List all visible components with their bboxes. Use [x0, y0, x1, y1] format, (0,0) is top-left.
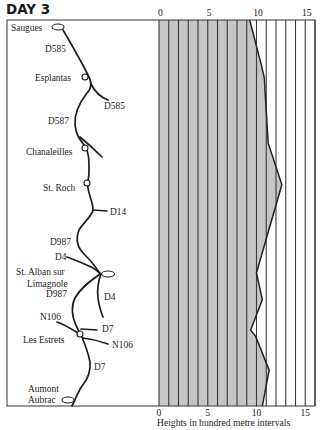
d4-upper-road: [67, 257, 101, 274]
esplantas-village-marker: [82, 74, 88, 80]
place-label-st-roch: St. Roch: [43, 183, 76, 193]
road-label-d987-north: D987: [50, 237, 71, 247]
road-label-d4-west: D4: [55, 252, 67, 262]
saugues-town-marker: [52, 24, 64, 30]
day-3-route-figure: DAY 3 051015 051015 Heights in hundred m…: [0, 0, 322, 430]
x-axis-title: Heights in hundred metre intervals: [157, 417, 290, 428]
road-label-d987-south: D987: [46, 289, 67, 299]
road-label-d7-south: D7: [94, 362, 106, 372]
st-alban-town-marker: [102, 271, 115, 277]
d14-branch-road: [93, 210, 107, 211]
main-route-road: [63, 30, 100, 406]
elevation-chart: 051015 051015 Heights in hundred metre i…: [157, 7, 315, 428]
route-map: Saugues Esplantas Chanaleilles St. Roch …: [11, 23, 133, 406]
x-tick-label-bottom-15: 15: [300, 407, 310, 418]
place-label-aumont-line1: Aumont: [28, 384, 59, 394]
road-label-d587: D587: [48, 116, 69, 126]
road-label-n106-east: N106: [112, 340, 133, 350]
st-roch-village-marker: [84, 180, 90, 186]
chanaleilles-village-marker: [82, 145, 88, 151]
d7-east-road: [81, 329, 97, 330]
place-label-esplantas: Esplantas: [35, 73, 71, 83]
place-label-st-alban-line2: Limagnole: [27, 279, 68, 289]
d4-lower-road: [98, 274, 103, 317]
place-label-chanaleilles: Chanaleilles: [26, 147, 73, 157]
place-label-aumont-line2: Aubrac: [28, 395, 56, 405]
n106-lower-road: [83, 338, 108, 344]
road-label-n106-west: N106: [40, 312, 61, 322]
aumont-aubrac-town-marker: [62, 397, 74, 403]
road-label-d4-south: D4: [104, 292, 116, 302]
page-title: DAY 3: [6, 1, 50, 17]
d585-branch-road: [91, 84, 108, 100]
road-label-d14: D14: [110, 207, 126, 217]
x-tick-label-top-0: 0: [158, 7, 163, 18]
les-estrets-village-marker: [77, 331, 83, 337]
x-tick-label-top-5: 5: [207, 7, 212, 18]
x-axis-ticks-top: 051015: [158, 7, 312, 18]
place-label-saugues: Saugues: [11, 23, 43, 33]
place-label-st-alban-line1: St. Alban sur: [16, 267, 66, 277]
road-label-d7-east: D7: [102, 324, 114, 334]
road-label-d585-east: D585: [104, 101, 125, 111]
x-tick-label-top-15: 15: [302, 7, 312, 18]
road-label-d585-north: D585: [45, 44, 66, 54]
place-label-les-estrets: Les Estrets: [23, 335, 65, 345]
elevation-fill-area: [159, 20, 282, 406]
x-tick-label-top-10: 10: [253, 7, 263, 18]
